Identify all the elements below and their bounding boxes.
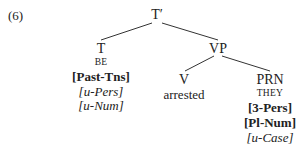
branch-tbar-to-t xyxy=(101,23,152,40)
word-arrested: arrested xyxy=(163,88,204,101)
node-vp: VP xyxy=(209,42,227,56)
example-number: (6) xyxy=(8,8,23,24)
feature-3-pers: [3-Pers] xyxy=(248,101,292,114)
feature-past-tns: [Past-Tns] xyxy=(72,70,130,83)
node-v: V xyxy=(179,73,189,87)
lexical-be: BE xyxy=(95,58,108,68)
branch-tbar-to-vp xyxy=(162,23,218,40)
node-prn: PRN xyxy=(256,73,283,87)
feature-u-pers: [u-Pers] xyxy=(79,85,124,98)
node-t: T xyxy=(97,42,106,56)
feature-u-num: [u-Num] xyxy=(78,99,124,112)
branch-vp-to-prn xyxy=(222,56,270,71)
branch-vp-to-v xyxy=(185,56,214,71)
feature-u-case: [u-Case] xyxy=(247,131,294,144)
lexical-they: THEY xyxy=(257,89,284,99)
node-tbar: T′ xyxy=(151,8,163,22)
feature-pl-num: [Pl-Num] xyxy=(244,116,296,129)
